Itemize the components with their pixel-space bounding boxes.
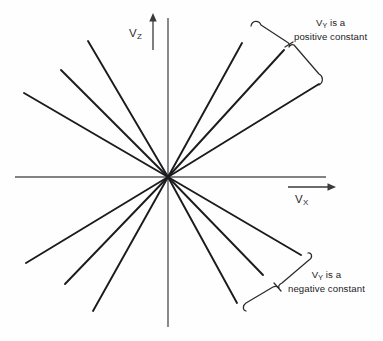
ray-upper-right-1 [168,43,242,177]
annotation-positive-line-1: VY is a [294,17,367,31]
axis-label-vz: VZ [129,26,142,42]
rays-group [24,41,319,311]
annotation-positive-rest: is a [327,17,345,28]
axis-label-vx-sub: X [303,198,308,207]
annotation-negative-line-1: VY is a [288,269,365,283]
annotation-positive-constant: VY is a positive constant [294,17,367,42]
ray-lower-right-2 [168,177,263,275]
vx-arrow [288,183,336,190]
axis-label-vx: VX [295,192,308,208]
vx-arrow-head-icon [328,183,337,190]
vz-arrow [149,13,156,50]
annotation-positive-line-2: positive constant [294,31,367,43]
velocity-ray-diagram: VZ VX VY is a positive constant VY is a … [0,0,383,341]
vz-arrow-head-icon [149,13,156,22]
annotation-negative-constant: VY is a negative constant [288,269,365,294]
axis-label-vz-main: V [129,27,137,39]
annotation-negative-line-2: negative constant [288,283,365,295]
annotation-negative-rest: is a [323,269,341,280]
axis-label-vz-sub: Z [137,32,142,41]
axis-label-vx-main: V [295,193,303,205]
ray-lower-right-1 [168,177,301,255]
ray-lower-right-3 [168,177,237,303]
ray-upper-right-3 [168,84,319,177]
ray-upper-right-2 [168,50,284,177]
